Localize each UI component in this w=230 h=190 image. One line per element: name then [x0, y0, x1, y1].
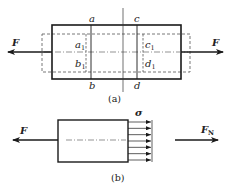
diagram-canvas: F F a b c d a1 b1 c1 d1 (a) σ F FN (b): [0, 0, 230, 190]
label-c1: c1: [145, 39, 155, 52]
free-body-segment: [58, 120, 128, 162]
stress-label: σ: [135, 107, 143, 118]
stress-arrows: [128, 120, 152, 162]
figure-a: F F a b c d a1 b1 c1 d1 (a): [8, 8, 223, 104]
label-c: c: [134, 13, 140, 24]
label-b1: b1: [75, 58, 86, 71]
deformed-bar-outline: [42, 34, 190, 72]
force-label-left-b: F: [19, 125, 28, 136]
label-d1: d1: [145, 58, 156, 71]
caption-a: (a): [108, 93, 121, 104]
label-d: d: [134, 80, 140, 91]
label-b: b: [89, 80, 95, 91]
force-label-left: F: [11, 37, 20, 48]
force-label-right: F: [211, 37, 220, 48]
internal-force-label: FN: [200, 124, 214, 137]
label-a1: a1: [75, 39, 85, 52]
caption-b: (b): [111, 172, 125, 183]
label-a: a: [89, 13, 95, 24]
figure-b: σ F FN (b): [13, 107, 218, 183]
